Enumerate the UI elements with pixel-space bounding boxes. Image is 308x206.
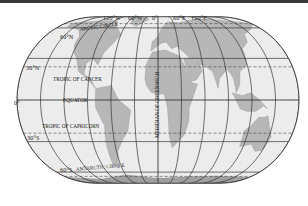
label-equator-deg: 0°: [14, 100, 20, 106]
label-120e: 120°E: [191, 15, 207, 21]
label-prime-meridian: MERIDIAN OF GREENWICH: [154, 71, 160, 138]
label-60n: 60°N: [60, 34, 74, 40]
label-60e: 60°E: [173, 15, 186, 21]
label-tropic-of-capricorn: TROPIC OF CAPRICORN: [42, 123, 100, 129]
label-120w: 120°W: [103, 15, 121, 21]
label-tropic-of-cancer: TROPIC OF CANCER: [53, 76, 102, 82]
label-60s: 60°S: [60, 167, 73, 173]
label-30s: 30°S: [27, 135, 40, 141]
world-map: 120°W 60°W 0° 60°E 120°E 60°N 30°N 0° 30…: [0, 0, 308, 206]
label-0: 0°: [152, 15, 158, 21]
label-60w: 60°W: [128, 15, 143, 21]
label-30n: 30°N: [26, 65, 40, 71]
label-equator: EQUATOR: [63, 97, 88, 103]
